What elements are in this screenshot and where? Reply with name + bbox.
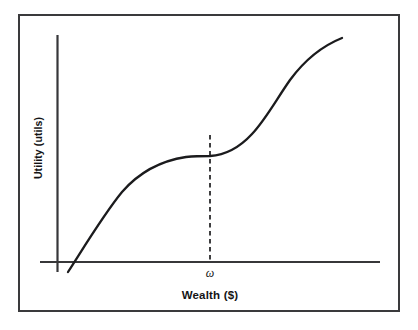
x-axis-label: Wealth ($) [182, 290, 239, 302]
y-axis-label: Utility (utils) [33, 117, 44, 179]
figure-canvas: Utility (utils) Wealth ($) ω [0, 0, 418, 330]
omega-tick-label: ω [206, 267, 214, 279]
